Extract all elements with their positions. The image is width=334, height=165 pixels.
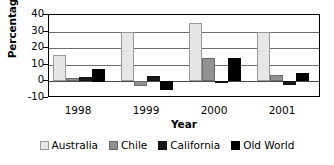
legend-item-oldworld[interactable]: Old World [231,140,294,151]
gridline [49,65,319,66]
bar-oldworld-2000 [228,58,241,81]
gridline [49,48,319,49]
bar-california-1998 [79,77,92,81]
bar-california-2000 [215,81,228,83]
y-axis-tick-label: 0 [10,75,44,85]
bar-california-2001 [283,81,296,84]
x-axis-tick-label: 2000 [184,104,244,116]
bar-chart: Percentage 403020100-10 1998199920002001… [0,0,334,165]
x-axis-tick-label: 1998 [48,104,108,116]
x-axis-tick-label: 1999 [116,104,176,116]
x-axis-tick-label: 2001 [252,104,312,116]
y-axis-tick-mark [43,97,48,98]
bar-chile-1999 [134,81,147,86]
bar-australia-1999 [121,32,134,82]
legend-swatch-icon [158,141,167,150]
legend-label: Old World [243,140,294,151]
bar-oldworld-2001 [296,73,309,81]
y-axis-tick-label: 20 [10,42,44,52]
gridline [49,81,319,82]
legend-swatch-icon [109,141,118,150]
legend-label: California [170,140,220,151]
bar-chile-1998 [66,78,79,81]
chart-legend: AustraliaChileCaliforniaOld World [0,140,334,151]
y-axis-tick-label: -10 [10,92,44,102]
bar-oldworld-1999 [160,81,173,89]
bar-australia-2000 [189,23,202,81]
bar-australia-2001 [257,32,270,82]
legend-item-california[interactable]: California [158,140,220,151]
bar-chile-2001 [270,75,283,82]
bar-chile-2000 [202,58,215,81]
legend-item-australia[interactable]: Australia [40,140,98,151]
bar-australia-1998 [53,55,66,82]
bar-oldworld-1998 [92,69,105,82]
legend-swatch-icon [231,141,240,150]
legend-swatch-icon [40,141,49,150]
y-axis-tick-label: 30 [10,26,44,36]
legend-label: Chile [121,140,147,151]
bar-california-1999 [147,76,160,82]
plot-area [48,14,320,97]
y-axis-tick-label: 40 [10,9,44,19]
x-axis-title: Year [48,118,320,130]
legend-label: Australia [52,140,98,151]
gridline [49,32,319,33]
y-axis-tick-label: 10 [10,59,44,69]
legend-item-chile[interactable]: Chile [109,140,147,151]
